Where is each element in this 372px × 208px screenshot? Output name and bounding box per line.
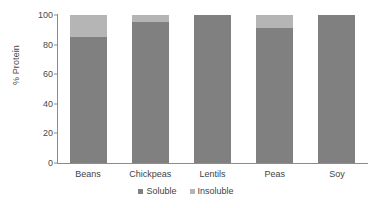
bar-stack <box>318 15 355 163</box>
legend-label: Soluble <box>146 186 176 196</box>
bar-segment-insoluble[interactable] <box>132 15 169 22</box>
bar-segment-soluble[interactable] <box>194 15 231 163</box>
legend-item-soluble[interactable]: Soluble <box>138 186 176 196</box>
bars-layer <box>57 15 368 163</box>
bar-group[interactable] <box>132 15 169 163</box>
chart-legend: SolubleInsoluble <box>0 186 372 196</box>
bar-segment-soluble[interactable] <box>318 15 355 163</box>
x-tick-label-peas: Peas <box>244 169 306 179</box>
stacked-bar-chart: % Protein 020406080100 BeansChickpeasLen… <box>0 0 372 208</box>
bar-stack <box>256 15 293 163</box>
bar-segment-soluble[interactable] <box>70 37 107 163</box>
x-axis-line <box>57 163 368 164</box>
x-tick-label-lentils: Lentils <box>181 169 243 179</box>
legend-swatch-icon <box>138 189 143 194</box>
y-tick-label: 100 <box>38 10 53 20</box>
x-tick-label-beans: Beans <box>57 169 119 179</box>
y-tick-label: 20 <box>43 128 53 138</box>
plot-area: 020406080100 <box>57 15 368 163</box>
y-tick-label: 40 <box>43 99 53 109</box>
y-tick-label: 80 <box>43 40 53 50</box>
bar-segment-soluble[interactable] <box>132 22 169 163</box>
bar-group[interactable] <box>318 15 355 163</box>
bar-group[interactable] <box>70 15 107 163</box>
y-tick-label: 60 <box>43 69 53 79</box>
bar-segment-insoluble[interactable] <box>256 15 293 28</box>
bar-group[interactable] <box>194 15 231 163</box>
y-tick-label: 0 <box>48 158 53 168</box>
y-axis-title: % Protein <box>11 25 21 105</box>
bar-segment-soluble[interactable] <box>256 28 293 163</box>
legend-swatch-icon <box>190 189 195 194</box>
bar-stack <box>194 15 231 163</box>
bar-segment-insoluble[interactable] <box>70 15 107 37</box>
legend-item-insoluble[interactable]: Insoluble <box>190 186 234 196</box>
x-tick-label-soy: Soy <box>306 169 368 179</box>
x-tick-label-chickpeas: Chickpeas <box>119 169 181 179</box>
bar-stack <box>70 15 107 163</box>
bar-stack <box>132 15 169 163</box>
legend-label: Insoluble <box>198 186 234 196</box>
bar-group[interactable] <box>256 15 293 163</box>
